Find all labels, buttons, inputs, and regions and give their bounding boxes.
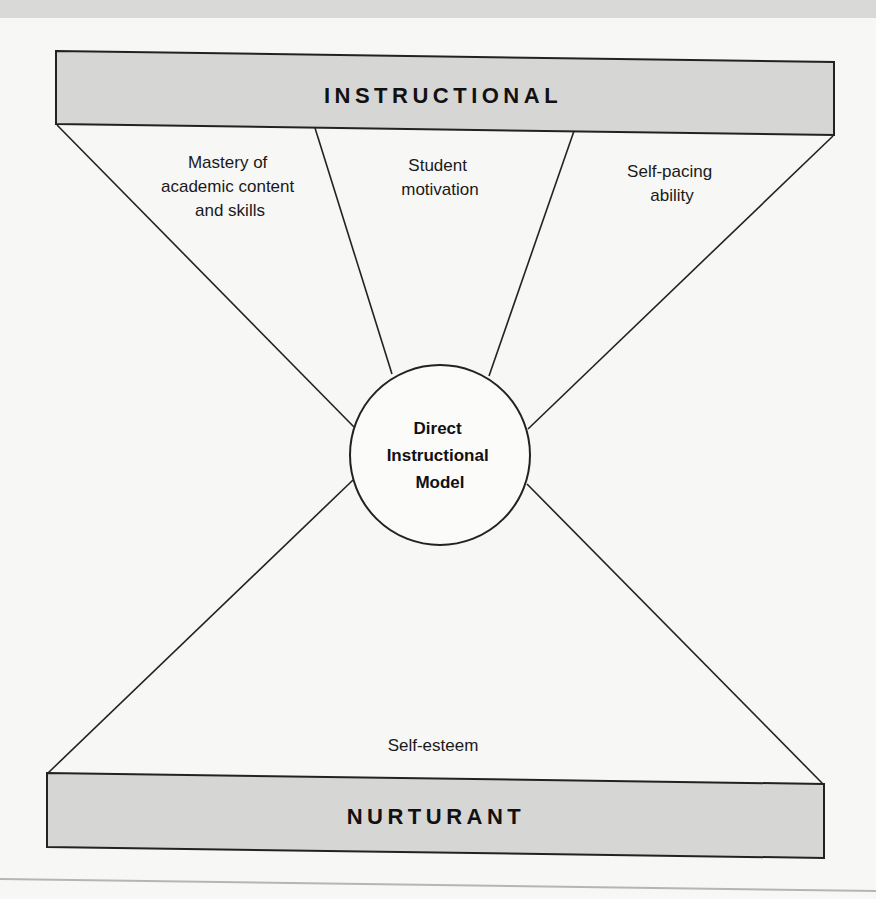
segment-mastery-line-2: academic content [161, 177, 295, 196]
segment-motivation-line-2: motivation [401, 180, 478, 199]
center-label-line-2: Instructional [387, 446, 489, 465]
nurturant-label: NURTURANT [347, 804, 526, 829]
segment-motivation-line-1: Student [408, 156, 467, 175]
instructional-label: INSTRUCTIONAL [324, 83, 562, 108]
connector-bottom-left [48, 480, 353, 773]
center-label-line-1: Direct [414, 419, 463, 438]
segment-self-esteem-label: Self-esteem [388, 736, 479, 755]
segment-self-pacing-label: Self-pacing ability [627, 162, 717, 205]
segment-motivation-label: Student motivation [401, 156, 478, 199]
segment-self-pacing-line-1: Self-pacing [627, 162, 712, 181]
segment-mastery-line-3: and skills [195, 201, 265, 220]
center-label-line-3: Model [415, 473, 464, 492]
segment-mastery-line-1: Mastery of [188, 153, 268, 172]
instructional-nurturant-diagram: INSTRUCTIONAL Direct Instructional Model… [0, 0, 876, 899]
page-rule [0, 879, 876, 891]
segment-self-pacing-line-2: ability [650, 186, 694, 205]
segment-mastery-label: Mastery of academic content and skills [161, 153, 299, 220]
connector-top-mid-right [489, 131, 574, 376]
connector-top-mid-left [315, 128, 392, 374]
connector-bottom-right [527, 484, 823, 784]
